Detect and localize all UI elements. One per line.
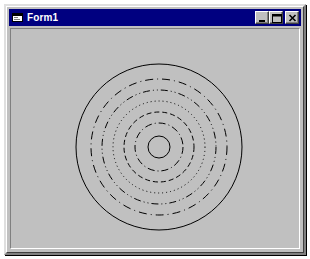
- caption-button-group: [255, 11, 299, 24]
- title-bar-left: Form1: [11, 11, 255, 24]
- form-icon[interactable]: [11, 11, 24, 24]
- drawing-canvas: [11, 29, 300, 249]
- close-button[interactable]: [285, 11, 299, 24]
- desktop-background: Form1: [0, 0, 310, 259]
- form-window-inner: Form1: [6, 6, 304, 253]
- minimize-icon: [256, 12, 270, 25]
- maximize-button[interactable]: [269, 11, 283, 24]
- window-title: Form1: [27, 11, 58, 24]
- maximize-icon: [270, 12, 284, 25]
- close-icon: [286, 12, 300, 25]
- form-window[interactable]: Form1: [4, 4, 306, 255]
- title-bar[interactable]: Form1: [9, 9, 301, 26]
- canvas-background: [11, 29, 300, 249]
- form-client-area[interactable]: [10, 28, 300, 249]
- minimize-button[interactable]: [255, 11, 269, 24]
- canvas-wrap: [11, 29, 299, 248]
